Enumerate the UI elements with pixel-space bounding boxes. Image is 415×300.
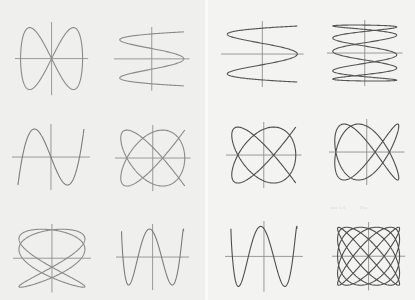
lissajous-curve-l4 (113, 123, 193, 193)
lissajous-curve-r6 (330, 220, 407, 292)
lissajous-curve-r5 (223, 219, 305, 294)
lissajous-curve-l1 (13, 20, 90, 97)
lissajous-curve-l5 (11, 222, 93, 294)
lissajous-curve-l3 (10, 122, 92, 192)
bleed-through-text: ctor 1.0 (330, 205, 345, 210)
lissajous-curve-r3 (224, 120, 304, 190)
lissajous-curve-l2 (112, 25, 192, 93)
lissajous-curve-r2 (325, 18, 405, 88)
bleed-through-text: Exe (360, 205, 368, 210)
lissajous-curve-l6 (114, 222, 191, 292)
lissajous-curve-r4 (327, 117, 407, 187)
lissajous-curve-r1 (219, 19, 306, 89)
